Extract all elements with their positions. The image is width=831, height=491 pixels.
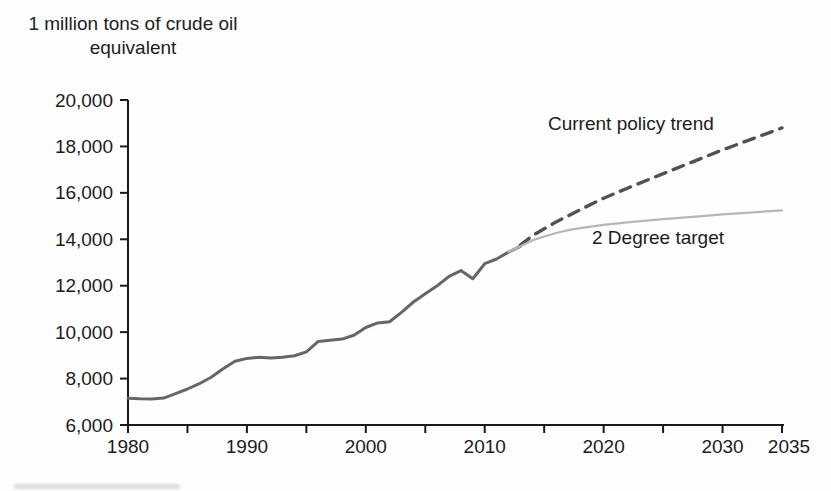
y-tick-label: 16,000 — [55, 182, 113, 203]
y-tick-label: 8,000 — [65, 368, 113, 389]
x-tick-label: 2000 — [345, 436, 387, 457]
y-tick-label: 20,000 — [55, 90, 113, 111]
y-tick-label: 18,000 — [55, 136, 113, 157]
x-tick-label: 2035 — [768, 436, 810, 457]
series-historical — [128, 246, 520, 399]
x-tick-label: 1980 — [107, 436, 149, 457]
y-tick-label: 10,000 — [55, 322, 113, 343]
y-axis-unit-label-line2: equivalent — [10, 36, 256, 60]
x-tick-label: 2010 — [464, 436, 506, 457]
axis-lines — [128, 100, 784, 425]
chart-page: 6,0008,00010,00012,00014,00016,00018,000… — [0, 0, 831, 491]
x-tick-label: 2020 — [582, 436, 624, 457]
x-tick-label: 2030 — [701, 436, 743, 457]
scan-artifact — [14, 484, 180, 489]
y-tick-label: 12,000 — [55, 275, 113, 296]
y-axis-unit-label: 1 million tons of crude oil equivalent — [10, 12, 256, 60]
current-policy-trend-label: Current policy trend — [548, 113, 714, 135]
y-axis-unit-label-line1: 1 million tons of crude oil — [10, 12, 256, 36]
x-tick-label: 1990 — [226, 436, 268, 457]
two-degree-target-label: 2 Degree target — [592, 227, 724, 249]
y-tick-label: 14,000 — [55, 229, 113, 250]
y-tick-label: 6,000 — [65, 415, 113, 436]
